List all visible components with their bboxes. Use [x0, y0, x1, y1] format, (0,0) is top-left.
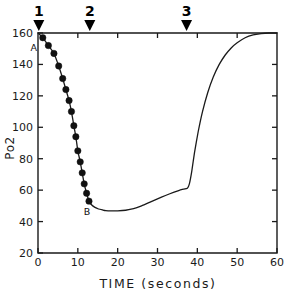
data-point [56, 63, 62, 69]
figure-container: 123 20406080100120140160 0102030405060 A… [0, 0, 293, 294]
y-axis-title: Po2 [3, 136, 17, 159]
y-tick-label: 80 [19, 153, 33, 166]
y-tick-label: 40 [19, 216, 33, 229]
x-tick-label: 30 [151, 256, 165, 269]
event-marker-label-2: 2 [85, 3, 95, 19]
y-tick-label: 160 [12, 27, 33, 40]
chart-background [0, 0, 293, 294]
y-tick-label: 60 [19, 184, 33, 197]
x-tick-label: 60 [270, 256, 284, 269]
x-tick-label: 40 [190, 256, 204, 269]
data-point [63, 86, 69, 92]
data-point [81, 181, 87, 187]
point-a-label: A [31, 42, 38, 53]
x-tick-label: 20 [111, 256, 125, 269]
x-tick-label: 0 [35, 256, 42, 269]
data-point [77, 159, 83, 165]
data-point [73, 134, 79, 140]
x-tick-label: 50 [230, 256, 244, 269]
y-tick-label: 100 [12, 121, 33, 134]
point-b-label: B [84, 206, 91, 217]
x-axis-title: TIME (seconds) [98, 276, 216, 291]
data-point [79, 170, 85, 176]
data-point [86, 198, 92, 204]
data-point [71, 123, 77, 129]
po2-time-chart: 123 20406080100120140160 0102030405060 A… [0, 0, 293, 294]
event-marker-label-3: 3 [182, 3, 192, 19]
y-tick-label: 20 [19, 247, 33, 260]
data-point [68, 108, 74, 114]
data-point [40, 35, 46, 41]
data-point [59, 75, 65, 81]
data-point [83, 190, 89, 196]
data-point [45, 42, 51, 48]
data-point [66, 97, 72, 103]
event-marker-label-1: 1 [34, 3, 44, 19]
y-tick-label: 140 [12, 58, 33, 71]
data-point [75, 148, 81, 154]
x-tick-label: 10 [71, 256, 85, 269]
y-tick-label: 120 [12, 90, 33, 103]
data-point [51, 50, 57, 56]
